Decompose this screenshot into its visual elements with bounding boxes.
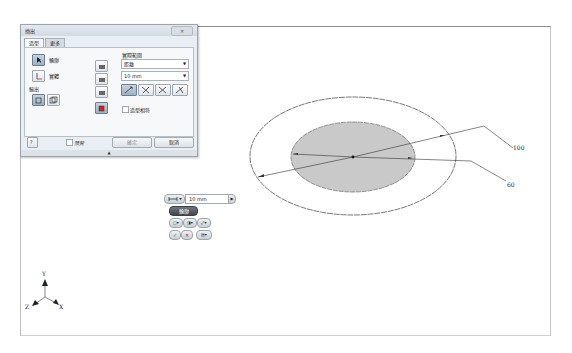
asymmetric-button[interactable] bbox=[172, 84, 188, 96]
dialog-titlebar[interactable]: 擠出 ✕ bbox=[21, 25, 197, 36]
mini-direction-button[interactable]: ⤢▾ bbox=[197, 218, 211, 228]
solid-select-button[interactable] bbox=[32, 70, 45, 82]
join-button[interactable] bbox=[95, 60, 108, 72]
match-shape-checkbox[interactable] bbox=[122, 106, 129, 113]
triad-x-label: X bbox=[59, 303, 63, 310]
triad-y-label: Y bbox=[42, 270, 46, 277]
mini-distance-value: 10 mm bbox=[189, 196, 207, 202]
join-icon bbox=[96, 61, 107, 71]
ok-button[interactable]: 確定 bbox=[112, 137, 152, 148]
help-button[interactable]: ? bbox=[27, 137, 38, 148]
match-shape-label: 造型相符 bbox=[130, 106, 150, 113]
symmetric-icon bbox=[156, 85, 170, 95]
output-surface-button[interactable] bbox=[47, 94, 60, 106]
dialog-tabs: 造型更多 bbox=[24, 38, 66, 47]
triad-z-label: Z bbox=[25, 303, 29, 310]
check-icon: ✓ bbox=[173, 232, 177, 238]
distance-mode-button[interactable] bbox=[164, 194, 185, 204]
asymmetric-icon bbox=[173, 85, 187, 95]
mini-distance-arrow[interactable]: ▶ bbox=[228, 194, 236, 204]
mini-profile-label: 輪廓 bbox=[179, 208, 189, 214]
cursor-arrow-icon bbox=[33, 55, 44, 65]
new-solid-button[interactable] bbox=[95, 102, 108, 114]
cut-button[interactable] bbox=[95, 73, 108, 85]
output-label: 輸出 bbox=[29, 85, 39, 92]
distance-icon bbox=[165, 195, 184, 203]
preview-label: 預覽 bbox=[74, 139, 84, 146]
mini-ok-button[interactable]: ✓ bbox=[169, 230, 181, 240]
dimension-60-label[interactable]: 60 bbox=[507, 181, 515, 188]
surface-output-icon bbox=[48, 95, 59, 105]
cut-icon bbox=[96, 74, 107, 84]
direction-2-button[interactable] bbox=[138, 84, 154, 96]
direction-1-icon bbox=[122, 85, 136, 95]
dialog-footer: ? 預覽 確定 取消 bbox=[21, 135, 197, 150]
tab-more[interactable]: 更多 bbox=[45, 38, 65, 47]
mini-profile-button[interactable]: 輪廓 bbox=[169, 206, 198, 216]
direction-1-button[interactable] bbox=[121, 84, 137, 96]
cancel-button[interactable]: 取消 bbox=[154, 137, 194, 148]
direction-2-icon bbox=[139, 85, 153, 95]
dialog-title: 擠出 bbox=[25, 27, 35, 34]
preview-checkbox[interactable] bbox=[66, 139, 73, 146]
chevron-down-icon: ▼ bbox=[183, 60, 186, 68]
dimension-100-label[interactable]: 100 bbox=[513, 144, 524, 151]
output-solid-button[interactable] bbox=[32, 94, 45, 106]
solid-output-icon bbox=[33, 95, 44, 105]
solid-icon bbox=[33, 71, 44, 81]
extents-title: 實際範圍 bbox=[122, 51, 142, 58]
extrude-dialog: 擠出 ✕ 造型更多 輪廓 實體 輸出 bbox=[20, 24, 198, 157]
help-icon: ? bbox=[30, 139, 33, 145]
extents-type-dropdown[interactable]: 距離 ▼ bbox=[121, 59, 189, 69]
view-triad[interactable] bbox=[32, 279, 59, 306]
symmetric-button[interactable] bbox=[155, 84, 171, 96]
mini-operation-button[interactable]: ◨▾ bbox=[183, 218, 197, 228]
shape-panel: 輪廓 實體 輸出 實際範圍 距離 ▼ bbox=[24, 47, 194, 137]
mini-distance-input[interactable]: 10 mm bbox=[185, 194, 230, 204]
profile-select-button[interactable] bbox=[32, 54, 45, 66]
profile-label: 輪廓 bbox=[49, 56, 59, 63]
cancel-icon: ✕ bbox=[185, 232, 189, 238]
mini-more-button[interactable]: ▤▾ bbox=[196, 230, 212, 240]
intersect-icon bbox=[96, 87, 107, 97]
collapse-grip[interactable]: ▲ bbox=[21, 150, 197, 156]
tab-shape[interactable]: 造型 bbox=[24, 38, 44, 47]
mini-cancel-button[interactable]: ✕ bbox=[181, 230, 193, 240]
extents-type-value: 距離 bbox=[124, 61, 134, 67]
mini-output-button[interactable]: □▾ bbox=[169, 218, 183, 228]
chevron-down-icon: ▼ bbox=[183, 72, 186, 80]
close-button[interactable]: ✕ bbox=[171, 26, 193, 36]
intersect-button[interactable] bbox=[95, 86, 108, 98]
new-solid-icon bbox=[96, 103, 107, 113]
distance-value: 10 mm bbox=[124, 73, 142, 79]
distance-input[interactable]: 10 mm ▼ bbox=[121, 71, 189, 81]
solid-label: 實體 bbox=[49, 72, 59, 79]
